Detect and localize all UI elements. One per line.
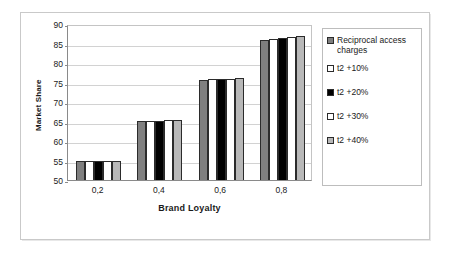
x-axis-tick-label: 0,6 — [214, 185, 226, 195]
legend-swatch-icon — [327, 37, 334, 44]
bar — [85, 161, 94, 181]
y-axis-tick-label: 55 — [45, 158, 63, 166]
y-axis-tick-label: 70 — [45, 99, 63, 107]
y-axis-tick-label: 80 — [45, 60, 63, 68]
legend-item: t2 +20% — [327, 87, 417, 97]
y-axis-tick-label: 50 — [45, 177, 63, 185]
legend-item-label: t2 +20% — [337, 87, 368, 97]
legend-item-label: t2 +10% — [337, 63, 368, 73]
bar — [103, 161, 112, 180]
bar-group — [76, 26, 121, 180]
bar-group — [260, 26, 305, 180]
x-axis-tick-label: 0,4 — [153, 185, 165, 195]
y-axis-tick-label: 65 — [45, 119, 63, 127]
bar — [112, 161, 121, 180]
bar — [278, 38, 287, 180]
x-axis-tick-label: 0,8 — [275, 185, 287, 195]
y-axis-tick-label: 75 — [45, 80, 63, 88]
legend-swatch-icon — [327, 89, 334, 96]
bar-group — [199, 26, 244, 180]
bar — [296, 36, 305, 180]
bars-layer — [68, 26, 311, 180]
y-axis-tick-label: 60 — [45, 138, 63, 146]
bar — [287, 37, 296, 180]
bar — [235, 78, 244, 180]
y-axis-tickmark — [65, 182, 68, 183]
y-axis-title: Market Share — [31, 60, 45, 150]
plot-area — [67, 25, 312, 181]
legend-swatch-icon — [327, 137, 334, 144]
legend-item: Reciprocal access charges — [327, 35, 417, 55]
legend-item-label: Reciprocal access charges — [337, 35, 417, 55]
bar — [94, 161, 103, 181]
bar-chart: Market Share 908580757065605550 0,20,40,… — [0, 0, 452, 256]
legend-item: t2 +30% — [327, 111, 417, 121]
y-axis-tick-label: 85 — [45, 41, 63, 49]
bar — [164, 120, 173, 180]
bar — [217, 79, 226, 180]
legend-item: t2 +40% — [327, 135, 417, 145]
bar — [269, 39, 278, 180]
legend-item-label: t2 +30% — [337, 111, 368, 121]
bar — [155, 121, 164, 180]
y-axis-tick-labels: 908580757065605550 — [45, 25, 63, 181]
x-axis-tick-label: 0,2 — [92, 185, 104, 195]
bar — [137, 121, 146, 180]
legend-swatch-icon — [327, 65, 334, 72]
x-axis-tick-labels: 0,20,40,60,8 — [67, 185, 312, 199]
bar — [76, 161, 85, 181]
bar — [146, 121, 155, 180]
legend-item: t2 +10% — [327, 63, 417, 73]
bar — [260, 40, 269, 180]
legend: Reciprocal access chargest2 +10%t2 +20%t… — [322, 28, 422, 186]
bar-group — [137, 26, 182, 180]
bar — [208, 79, 217, 180]
bar — [173, 120, 182, 180]
legend-item-label: t2 +40% — [337, 135, 368, 145]
x-axis-title: Brand Loyalty — [67, 203, 312, 213]
bar — [226, 79, 235, 180]
bar — [199, 80, 208, 180]
y-axis-tick-label: 90 — [45, 21, 63, 29]
legend-swatch-icon — [327, 113, 334, 120]
